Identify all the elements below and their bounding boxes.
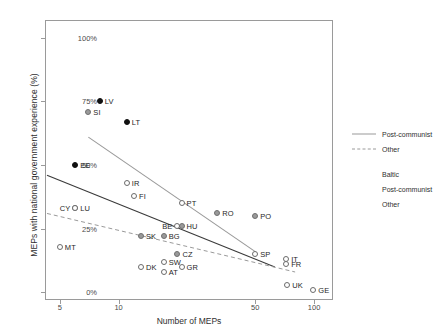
data-point-lu [72,205,78,211]
legend-line-item: Post-communist [352,126,436,141]
legend-marker-item: Post-communist [352,181,436,196]
data-point-lv [97,98,103,104]
data-point-at [161,269,167,275]
x-tick-label: 5 [58,303,62,312]
data-point-label-dk: DK [146,262,157,271]
y-tick-mark [41,292,45,293]
data-point-pt [179,200,185,206]
legend-marker-label: Baltic [382,170,399,177]
y-tick-label: 100% [78,33,97,42]
y-tick-label: 75% [82,97,97,106]
data-point-label-fr: FR [291,260,301,269]
legend-marker-label: Post-communist [382,185,432,192]
data-point-label-at: AT [169,268,178,277]
y-tick-mark [41,229,45,230]
x-tick-mark [60,300,61,304]
legend-marker-item: Other [352,196,436,211]
data-point-label-sk: SK [146,232,156,241]
data-point-bg [161,233,167,239]
data-point-gr [179,264,185,270]
data-point-label-ro: RO [222,209,233,218]
data-point-label-lv: LV [105,97,114,106]
data-point-ge [310,287,316,293]
data-point-sw [161,259,167,265]
legend-line-item: Other [352,141,436,156]
data-point-fi [131,193,137,199]
legend-marker-swatch [358,171,364,177]
data-point-fr [283,261,289,267]
data-point-label-ee: EE [80,161,90,170]
x-tick-mark [119,300,120,304]
data-point-label-be: BE [162,222,172,231]
data-point-label-fi: FI [139,191,146,200]
legend-marker-swatch [358,186,364,192]
data-point-label-gr: GR [187,262,198,271]
data-point-ir [124,180,130,186]
data-point-sk [138,233,144,239]
data-point-label-sp: SP [260,250,270,259]
data-point-label-hu: HU [187,222,198,231]
y-tick-mark [41,165,45,166]
x-axis-title: Number of MEPs [45,316,333,326]
data-point-label-lu: LU [80,204,90,213]
data-point-sp [252,251,258,257]
data-point-mt [57,244,63,250]
legend-line-label: Other [382,145,400,152]
x-tick-mark [314,300,315,304]
legend-line-label: Post-communist [382,130,432,137]
data-point-label-bg: BG [169,232,180,241]
data-point-po [252,213,258,219]
data-point-label-si: SI [93,107,100,116]
data-point-label-ge: GE [318,285,329,294]
y-tick-mark [41,38,45,39]
data-point-label-po: PO [260,212,271,221]
data-point-dk [138,264,144,270]
y-tick-label: 25% [82,224,97,233]
data-point-lt [124,119,130,125]
y-tick-label: 0% [86,288,97,297]
legend: Post-communistOther BalticPost-communist… [352,126,436,211]
y-axis-title: MEPs with national government experience… [29,45,39,285]
legend-line-swatch [352,133,376,134]
data-point-label-cz: CZ [182,250,192,259]
data-point-si [85,109,91,115]
data-point-label-cy: CY [60,204,71,213]
data-point-hu [179,223,185,229]
x-tick-label: 50 [251,303,259,312]
x-tick-mark [255,300,256,304]
legend-marker-swatch [358,201,364,207]
x-tick-label: 100 [308,303,321,312]
chart-canvas: MEPs with national government experience… [0,0,436,336]
data-point-ee [72,162,78,168]
data-point-label-mt: MT [65,242,76,251]
x-tick-label: 10 [114,303,122,312]
data-point-uk [284,282,290,288]
data-point-label-lt: LT [132,117,140,126]
data-point-label-pt: PT [187,199,197,208]
data-point-label-ir: IR [132,178,140,187]
legend-marker-item: Baltic [352,166,436,181]
legend-marker-label: Other [382,200,400,207]
legend-line-swatch [352,148,376,149]
y-tick-mark [41,101,45,102]
data-point-label-uk: UK [292,280,303,289]
data-point-ro [214,210,220,216]
data-point-cz [174,251,180,257]
